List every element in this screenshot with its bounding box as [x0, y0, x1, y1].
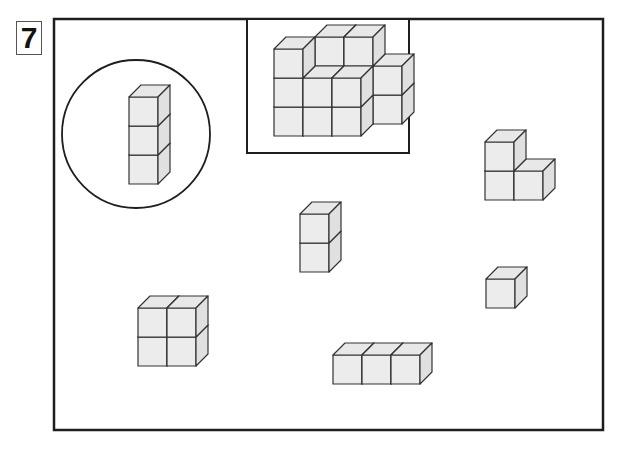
piece-row-3-cubes — [333, 343, 432, 384]
cube-shapes — [129, 25, 555, 384]
puzzle-scene — [0, 0, 618, 451]
piece-square-2x2 — [138, 296, 208, 366]
piece-tower-2-cubes — [300, 202, 341, 272]
reference-tower-3-cubes — [129, 85, 170, 184]
piece-l-shape — [485, 130, 555, 200]
piece-single-cube — [486, 267, 527, 308]
